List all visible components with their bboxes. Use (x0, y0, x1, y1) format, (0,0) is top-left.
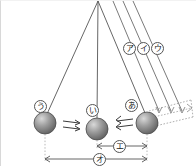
pendulum-figure (1, 1, 196, 166)
string-label-u-katakana: ウ (151, 42, 164, 55)
dimension-label-e: エ (113, 140, 126, 153)
ball-label-a: あ (125, 99, 138, 112)
string-katakana-u (133, 1, 182, 111)
pendulum-balls (34, 112, 158, 140)
ball-u (34, 112, 56, 134)
diagram-canvas: う い あ ア イ ウ エ オ (0, 0, 196, 166)
string-to-ball-a (98, 1, 145, 113)
ball-label-u: う (34, 100, 47, 113)
ball-i (86, 118, 108, 140)
dimension-label-o: オ (93, 153, 106, 166)
string-label-i-katakana: イ (137, 42, 150, 55)
string-to-ball-i (97, 1, 98, 119)
string-katakana-a (113, 1, 159, 111)
string-katakana-i (123, 1, 171, 111)
arrow-pair-left (63, 120, 80, 131)
string-to-ball-u (47, 1, 98, 114)
arrow-pair-right (116, 116, 133, 130)
ball-label-i: い (86, 104, 99, 117)
string-label-a-katakana: ア (123, 42, 136, 55)
extra-strings (113, 1, 182, 111)
ball-a (136, 112, 158, 134)
